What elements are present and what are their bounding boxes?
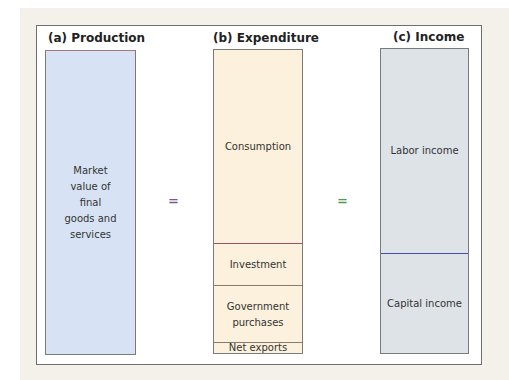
income-box: Labor income Capital income: [380, 48, 469, 354]
segment-net-exports: Net exports: [214, 342, 302, 353]
segment-government-purchases: Government purchases: [214, 285, 302, 343]
segment-investment: Investment: [214, 243, 302, 285]
segment-capital-income: Capital income: [381, 253, 468, 353]
expenditure-box: Consumption Investment Government purcha…: [213, 49, 303, 354]
segment-consumption: Consumption: [214, 50, 302, 243]
segment-labor-income: Labor income: [381, 49, 468, 253]
title-production: (a) Production: [48, 31, 145, 45]
title-expenditure: (b) Expenditure: [213, 31, 319, 45]
equals-sign-right: =: [337, 193, 348, 208]
equals-sign-left: =: [168, 193, 179, 208]
production-box: Market value of final goods and services: [45, 50, 136, 355]
title-income: (c) Income: [393, 30, 464, 44]
production-label: Market value of final goods and services: [46, 51, 135, 354]
